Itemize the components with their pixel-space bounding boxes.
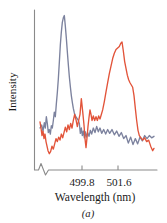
y-axis-title: Intensity bbox=[6, 72, 18, 112]
x-axis bbox=[35, 163, 158, 175]
spectrum-figure: 499.8 501.6 Wavelength (nm) Intensity (a… bbox=[0, 0, 167, 223]
x-axis-title: Wavelength (nm) bbox=[55, 191, 136, 204]
x-tick-label-0: 499.8 bbox=[69, 176, 95, 188]
plot-traces bbox=[40, 16, 154, 154]
x-axis-line-with-break bbox=[35, 163, 158, 175]
figure-caption: (a) bbox=[82, 208, 95, 220]
x-tick-labels: 499.8 501.6 bbox=[69, 176, 132, 188]
x-tick-label-1: 501.6 bbox=[106, 176, 132, 188]
chart-svg: 499.8 501.6 Wavelength (nm) Intensity (a… bbox=[0, 0, 167, 223]
